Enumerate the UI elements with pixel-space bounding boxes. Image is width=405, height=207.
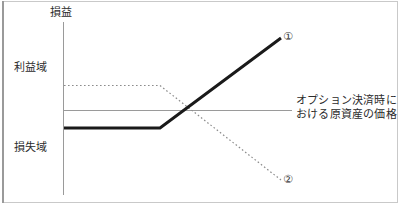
underlying-price-label-line-1: オプション決済時に: [296, 93, 397, 107]
y-axis-title: 損益: [50, 6, 72, 19]
series-line-2: [64, 86, 281, 181]
loss-zone-label: 損失域: [14, 141, 48, 154]
underlying-price-axis-label: オプション決済時に おける原資産の価格: [296, 93, 397, 121]
underlying-price-label-line-2: おける原資産の価格: [296, 107, 397, 121]
option-payoff-figure: 損益 利益域 損失域 オプション決済時に おける原資産の価格 ① ②: [0, 0, 405, 207]
profit-zone-label: 利益域: [14, 61, 48, 74]
series-1-marker: ①: [283, 31, 293, 42]
series-line-1: [64, 38, 281, 128]
series-2-marker: ②: [283, 174, 293, 185]
